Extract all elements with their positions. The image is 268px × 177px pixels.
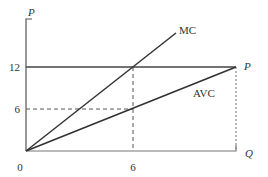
mc-curve bbox=[26, 33, 176, 151]
x-axis bbox=[26, 145, 236, 151]
origin-label: 0 bbox=[17, 161, 23, 173]
cost-curve-chart: P Q 0 12 6 6 MC P AVC bbox=[0, 0, 268, 177]
y-axis-label: P bbox=[27, 6, 35, 18]
y-axis bbox=[26, 19, 32, 151]
x-axis-label: Q bbox=[245, 147, 253, 159]
mc-label: MC bbox=[179, 24, 196, 36]
price-label: P bbox=[243, 60, 251, 72]
avc-label: AVC bbox=[193, 87, 215, 99]
x-tick-6: 6 bbox=[130, 161, 136, 173]
y-tick-6: 6 bbox=[15, 103, 21, 115]
y-tick-12: 12 bbox=[9, 61, 20, 73]
